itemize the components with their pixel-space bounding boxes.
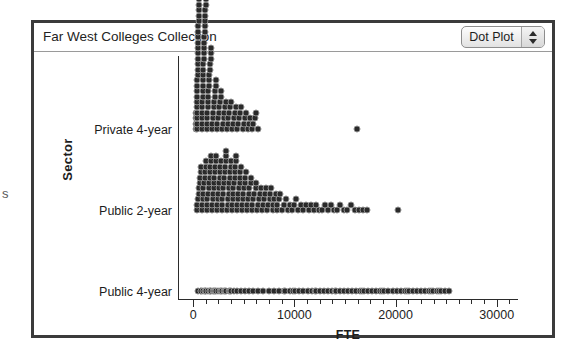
data-point[interactable] — [254, 126, 261, 133]
y-tick-label: Private 4-year — [52, 123, 172, 137]
x-tick-minor — [358, 300, 359, 304]
x-axis-ticks — [178, 300, 518, 307]
x-tick-minor — [269, 300, 270, 304]
x-tick-minor — [320, 300, 321, 304]
dot-plot-area: Sector FTE 0100002000030000Private 4-yea… — [34, 52, 552, 335]
plot-type-selected-label: Dot Plot — [462, 27, 521, 47]
x-tick-minor — [383, 300, 384, 304]
x-tick-minor — [370, 300, 371, 304]
plot-frame — [178, 56, 518, 300]
x-axis-title: FTE — [178, 328, 518, 342]
x-tick-minor — [206, 300, 207, 304]
plot-type-stepper[interactable] — [521, 27, 544, 47]
x-tick-minor — [256, 300, 257, 304]
x-tick-minor — [459, 300, 460, 304]
x-tick-minor — [446, 300, 447, 304]
x-tick-label: 20000 — [378, 308, 413, 322]
triangle-up-icon[interactable] — [529, 31, 537, 36]
window-titlebar: Far West Colleges Collection Dot Plot — [34, 23, 552, 52]
x-tick-minor — [471, 300, 472, 304]
x-tick-minor — [345, 300, 346, 304]
triangle-down-icon[interactable] — [529, 39, 537, 44]
x-tick-minor — [244, 300, 245, 304]
data-point[interactable] — [208, 45, 215, 52]
x-tick-minor — [434, 300, 435, 304]
x-tick-major — [294, 300, 295, 307]
data-point[interactable] — [223, 147, 230, 154]
x-tick-minor — [307, 300, 308, 304]
x-tick-minor — [408, 300, 409, 304]
x-tick-major — [396, 300, 397, 307]
x-tick-major — [497, 300, 498, 307]
y-tick-label: Public 4-year — [52, 285, 172, 299]
x-tick-label: 10000 — [277, 308, 312, 322]
data-point[interactable] — [394, 207, 401, 214]
data-point[interactable] — [218, 88, 225, 95]
plot-type-popup-button[interactable]: Dot Plot — [461, 26, 545, 48]
x-tick-minor — [509, 300, 510, 304]
collection-title: Far West Colleges Collection — [43, 29, 217, 44]
y-tick-label: Public 2-year — [52, 204, 172, 218]
page-edge-text-fragment: s — [2, 186, 9, 201]
data-point[interactable] — [213, 77, 220, 84]
x-tick-minor — [282, 300, 283, 304]
data-point[interactable] — [233, 153, 240, 160]
x-tick-major — [193, 300, 194, 307]
data-point[interactable] — [354, 126, 361, 133]
plot-window: Far West Colleges Collection Dot Plot Se… — [31, 20, 555, 338]
x-tick-minor — [421, 300, 422, 304]
data-point[interactable] — [364, 207, 371, 214]
x-tick-minor — [231, 300, 232, 304]
x-tick-minor — [218, 300, 219, 304]
dot-canvas — [179, 56, 518, 299]
x-tick-minor — [332, 300, 333, 304]
x-tick-minor — [484, 300, 485, 304]
data-point[interactable] — [446, 288, 453, 295]
x-tick-label: 30000 — [479, 308, 514, 322]
x-tick-label: 0 — [190, 308, 197, 322]
data-point[interactable] — [253, 109, 260, 116]
